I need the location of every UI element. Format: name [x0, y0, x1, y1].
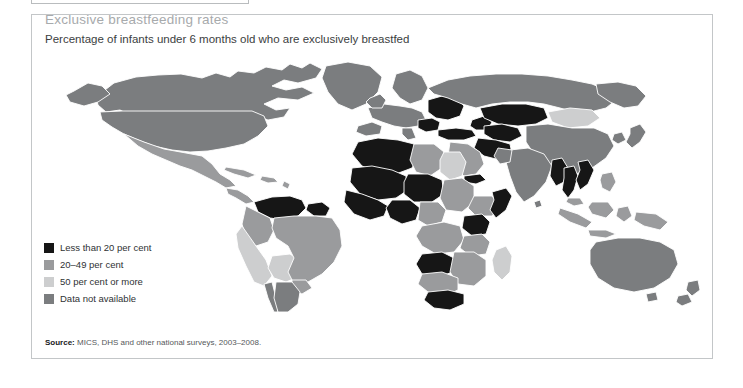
map-legend: Less than 20 per cent 20–49 per cent 50 … [44, 241, 234, 309]
figure-subtitle: Percentage of infants under 6 months old… [45, 33, 409, 45]
legend-label-no-data: Data not available [60, 294, 136, 304]
region-japan [626, 124, 646, 148]
region-iberia [356, 122, 382, 136]
region-madagascar [492, 246, 512, 280]
legend-label-20-49: 20–49 per cent [60, 260, 123, 270]
region-suriname [306, 202, 330, 216]
region-central-america [226, 188, 254, 204]
region-australia [590, 238, 678, 292]
region-nigeria [386, 200, 420, 224]
region-malaysia [566, 198, 584, 206]
region-cuba [224, 167, 256, 178]
region-balkans [418, 118, 440, 132]
figure-root: Exclusive breastfeeding rates Percentage… [0, 0, 743, 388]
region-united-states [100, 111, 268, 152]
legend-label-50-or-more: 50 per cent or more [60, 277, 143, 287]
legend-label-under-20: Less than 20 per cent [60, 243, 151, 253]
region-hispaniola [260, 176, 278, 183]
legend-swatch-under-20 [44, 243, 54, 253]
legend-item-20-49: 20–49 per cent [44, 258, 234, 272]
region-tasmania [646, 292, 658, 302]
figure-title: Exclusive breastfeeding rates [45, 12, 229, 27]
source-text: MICS, DHS and other national surveys, 20… [75, 338, 261, 347]
region-somalia [490, 188, 512, 218]
region-philippines [600, 172, 616, 192]
source-label: Source: [45, 338, 75, 347]
region-indonesia-sumatra [558, 208, 592, 228]
region-indonesia-borneo [588, 202, 614, 218]
legend-swatch-50-or-more [44, 277, 54, 287]
source-note: Source: MICS, DHS and other national sur… [45, 338, 261, 347]
region-sri-lanka [534, 200, 542, 208]
region-india [506, 148, 552, 202]
region-korea [612, 132, 626, 144]
region-egypt [440, 152, 466, 180]
legend-item-under-20: Less than 20 per cent [44, 241, 234, 255]
region-niger-chad [404, 174, 444, 202]
region-papua-new-guinea [634, 212, 668, 230]
above-panel-box-stub [31, 0, 249, 4]
region-lesser-antilles [282, 181, 290, 189]
region-new-zealand-south [676, 294, 692, 306]
region-scandinavia [392, 70, 428, 104]
region-kenya [462, 214, 490, 236]
region-argentina [274, 282, 300, 312]
region-indonesia-java [588, 230, 616, 238]
region-indonesia-sulawesi [616, 206, 632, 222]
legend-item-50-or-more: 50 per cent or more [44, 275, 234, 289]
region-pakistan [494, 148, 512, 164]
region-dr-congo [416, 222, 464, 254]
region-thailand [562, 166, 578, 198]
legend-item-no-data: Data not available [44, 292, 234, 306]
region-south-africa [424, 290, 464, 310]
region-libya [410, 144, 444, 176]
region-turkey [438, 128, 476, 140]
region-italy [402, 128, 416, 140]
legend-swatch-20-49 [44, 260, 54, 270]
legend-swatch-no-data [44, 294, 54, 304]
